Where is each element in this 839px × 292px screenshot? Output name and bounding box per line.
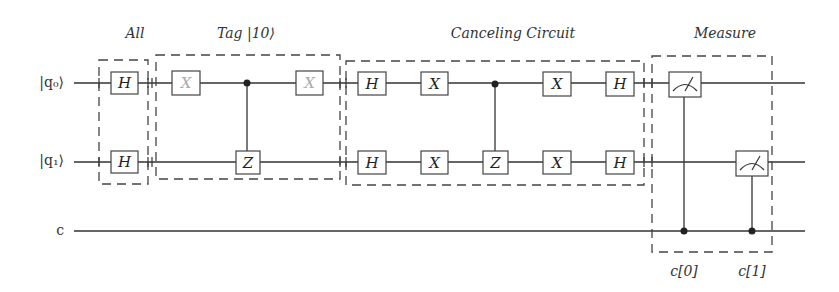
svg-text:X: X (428, 154, 441, 172)
gate-h-q1-cancel-2: H (606, 151, 634, 174)
svg-text:H: H (364, 154, 379, 172)
classical-dot-c1 (749, 228, 756, 235)
gate-h-q0-all: H (111, 72, 138, 94)
measure-meter-q0 (669, 72, 701, 97)
gate-x-q0-cancel-1: X (421, 72, 448, 95)
section-title-canceling: Canceling Circuit (451, 25, 576, 41)
svg-text:H: H (117, 74, 132, 92)
svg-text:Z: Z (489, 154, 501, 172)
svg-text:H: H (364, 75, 379, 93)
gate-h-q0-cancel-1: H (358, 72, 386, 95)
measure-meter-q1 (736, 151, 768, 176)
svg-text:X: X (180, 74, 193, 92)
gate-x-q1-cancel-1: X (421, 151, 448, 174)
control-dot-tag (244, 80, 251, 87)
wire-label-c: c (56, 222, 64, 238)
section-title-tag: Tag |10⟩ (217, 25, 275, 42)
gate-z-q1-tag: Z (236, 151, 260, 174)
gate-x-q0-tag-2: X (296, 71, 323, 95)
svg-text:X: X (551, 75, 564, 93)
wire-label-q0: |q₀⟩ (39, 74, 64, 91)
gate-x-q1-cancel-2: X (543, 151, 571, 174)
section-title-measure: Measure (693, 25, 756, 41)
svg-text:X: X (303, 74, 316, 92)
svg-text:Z: Z (242, 154, 254, 172)
gate-x-q0-cancel-2: X (543, 72, 571, 96)
gate-x-q0-tag-1: X (172, 71, 200, 95)
gate-z-q1-cancel: Z (483, 151, 508, 174)
control-dot-cancel (492, 81, 499, 88)
measure-output-c0: c[0] (670, 263, 698, 279)
gate-h-q0-cancel-2: H (606, 72, 634, 96)
svg-text:H: H (612, 75, 627, 93)
gate-h-q1-all: H (111, 151, 138, 173)
wire-label-q1: |q₁⟩ (39, 152, 64, 169)
svg-text:X: X (551, 154, 564, 172)
measure-output-c1: c[1] (738, 263, 766, 279)
quantum-circuit-diagram: All Tag |10⟩ Canceling Circuit Measure |… (0, 0, 839, 292)
svg-text:H: H (612, 154, 627, 172)
gate-h-q1-cancel-1: H (358, 151, 386, 174)
section-title-all: All (123, 25, 144, 41)
classical-dot-c0 (681, 228, 688, 235)
svg-text:X: X (428, 75, 441, 93)
svg-text:H: H (117, 153, 132, 171)
